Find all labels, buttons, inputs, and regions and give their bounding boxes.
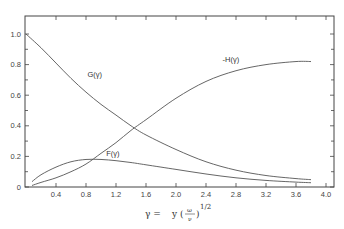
curve-g <box>26 34 311 180</box>
x-tick-label: 2.0 <box>171 190 181 199</box>
curve-label-h: -H(γ) <box>223 55 240 64</box>
xlabel-y: y ( <box>171 209 183 219</box>
x-tick-label: 2.8 <box>231 190 241 199</box>
xlabel-exponent: 1/2 <box>200 203 211 211</box>
y-tick-label: 0.6 <box>11 91 21 100</box>
xlabel-gamma: γ = <box>145 209 161 219</box>
x-tick-label: 0.4 <box>51 190 61 199</box>
y-tick-label: 0 <box>17 183 21 192</box>
x-tick-label: 0.8 <box>81 190 91 199</box>
y-tick-label: 1.0 <box>11 30 21 39</box>
curve-label-f: F(γ) <box>106 149 120 158</box>
x-tick-label: 3.6 <box>291 190 301 199</box>
curve-label-g: G(γ) <box>88 70 103 79</box>
curve-h <box>32 61 311 185</box>
y-axis-ticks: 00.20.40.60.81.0 <box>11 30 334 192</box>
xlabel-numerator: ω <box>187 206 192 213</box>
xlabel-close: ) <box>196 209 200 219</box>
y-tick-label: 0.4 <box>11 121 21 130</box>
xlabel-denominator: ν <box>188 215 192 222</box>
x-tick-label: 3.2 <box>261 190 271 199</box>
chart: 00.20.40.60.81.0 0.40.81.21.62.02.42.83.… <box>0 0 344 229</box>
x-tick-label: 4.0 <box>321 190 331 199</box>
y-tick-label: 0.2 <box>11 152 21 161</box>
x-tick-label: 1.6 <box>141 190 151 199</box>
x-tick-label: 1.2 <box>111 190 121 199</box>
x-axis-label: γ = y ( ω ν ) 1/2 <box>145 203 211 222</box>
y-tick-label: 0.8 <box>11 60 21 69</box>
curve-f <box>32 159 311 182</box>
curves: G(γ)-H(γ)F(γ) <box>26 34 311 185</box>
x-tick-label: 2.4 <box>201 190 211 199</box>
